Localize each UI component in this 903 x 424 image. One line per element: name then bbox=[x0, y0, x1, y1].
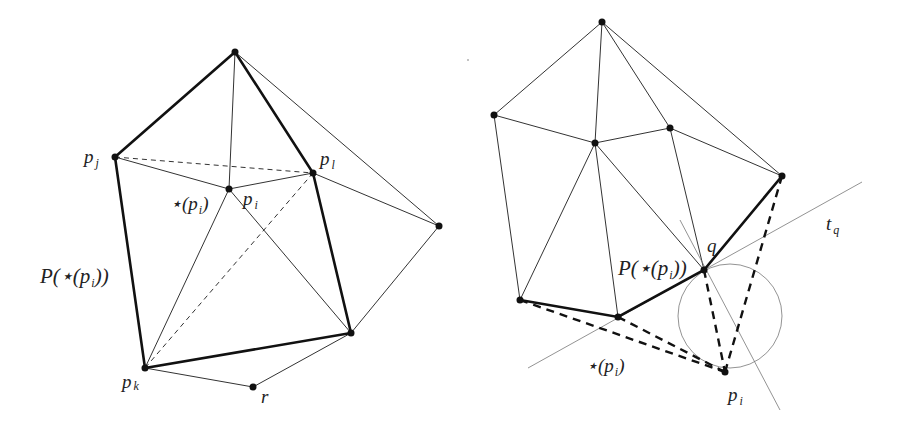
label-r: r bbox=[261, 386, 269, 407]
label-pi: pi bbox=[241, 188, 258, 212]
label-pj: pj bbox=[82, 146, 100, 170]
right-triangulation bbox=[491, 19, 863, 411]
label-pi-right: pi bbox=[726, 384, 743, 408]
label-q: q bbox=[707, 235, 717, 256]
right-labels: q tq P(⋆(pi)) ⋆(pi) pi bbox=[586, 213, 839, 408]
label-pl: pl bbox=[318, 148, 336, 172]
delaunay-diagram: pj pl pi ⋆(pi) P(⋆(pi)) pk r bbox=[0, 0, 903, 424]
left-labels: pj pl pi ⋆(pi) P(⋆(pi)) pk r bbox=[39, 146, 336, 407]
label-star-pi-right: ⋆(pi) bbox=[586, 355, 625, 379]
label-star-pi: ⋆(pi) bbox=[170, 193, 209, 217]
left-triangulation bbox=[112, 49, 443, 391]
label-pk: pk bbox=[120, 371, 140, 393]
label-P-star-pi-right: P(⋆(pi)) bbox=[617, 256, 687, 282]
label-tq: tq bbox=[826, 213, 839, 237]
polygon-boundary-right bbox=[520, 176, 782, 317]
label-P-star-pi: P(⋆(pi)) bbox=[39, 264, 109, 290]
